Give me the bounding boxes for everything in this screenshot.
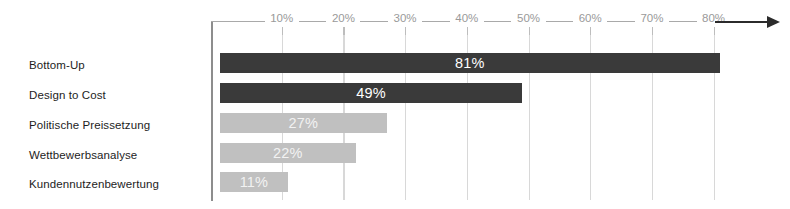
x-axis-segment [607, 21, 635, 22]
x-tick-mark [652, 27, 653, 35]
x-tick-mark [405, 27, 406, 35]
x-tick-mark [467, 27, 468, 35]
x-axis-segment [211, 21, 265, 22]
category-label-bottom-up: Bottom-Up [29, 58, 204, 72]
bar-value-label: 27% [288, 116, 318, 131]
bar-value-label: 22% [273, 146, 303, 161]
category-label-kundennutzenbewertung: Kundennutzenbewertung [29, 177, 204, 191]
x-axis-arrow-icon [767, 16, 780, 28]
x-axis-segment [422, 21, 450, 22]
x-tick-mark [343, 27, 344, 35]
x-axis-segment [669, 21, 697, 22]
x-tick-label: 70% [638, 12, 665, 24]
x-axis-arrow-shaft [715, 21, 769, 23]
x-tick-label: 30% [392, 12, 419, 24]
y-axis-line [211, 21, 213, 201]
x-tick-mark [714, 27, 715, 35]
horizontal-bar-chart: Bottom-Up Design to Cost Politische Prei… [0, 0, 790, 209]
x-axis-segment [546, 21, 574, 22]
bar-politische-preissetzung: 27% [220, 113, 387, 133]
x-axis-segment [299, 21, 327, 22]
x-axis-segment [360, 21, 388, 22]
bar-wettbewerbsanalyse: 22% [220, 143, 356, 163]
bar-bottom-up: 81% [220, 53, 720, 73]
x-tick-label: 10% [268, 12, 295, 24]
x-tick-mark [590, 27, 591, 35]
plot-area: 10%20%30%40%50%60%70%80% 81%49%27%22%11% [211, 0, 790, 209]
bar-value-label: 81% [455, 56, 485, 71]
category-label-politische-preissetzung: Politische Preissetzung [29, 118, 204, 132]
bar-value-label: 49% [356, 86, 386, 101]
bar-value-label: 11% [240, 175, 269, 190]
x-tick-label: 20% [330, 12, 357, 24]
category-label-wettbewerbsanalyse: Wettbewerbsanalyse [29, 148, 204, 162]
bar-kundennutzenbewertung: 11% [220, 172, 288, 192]
bar-design-to-cost: 49% [220, 83, 522, 103]
category-label-design-to-cost: Design to Cost [29, 88, 204, 102]
x-tick-label: 60% [577, 12, 604, 24]
x-tick-label: 40% [453, 12, 480, 24]
x-tick-label: 50% [515, 12, 542, 24]
x-tick-mark [529, 27, 530, 35]
x-tick-mark [282, 27, 283, 35]
x-axis-segment [484, 21, 512, 22]
